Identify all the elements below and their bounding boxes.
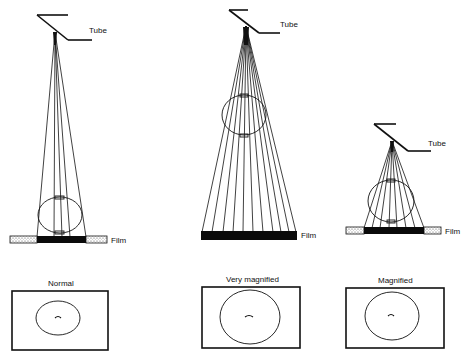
film	[364, 227, 424, 234]
film-label: Film	[301, 231, 316, 240]
tube-label: Tube	[89, 26, 107, 35]
result-label: Normal	[48, 279, 74, 288]
tube-icon	[37, 15, 92, 40]
tube-icon	[374, 124, 431, 151]
film	[37, 236, 86, 243]
result-label: Magnified	[378, 276, 413, 285]
result-image-normal	[12, 291, 108, 350]
tube-icon	[229, 10, 280, 33]
magnification-diagram: Tube Film Normal	[0, 0, 465, 355]
film	[201, 231, 297, 240]
object-sphere	[368, 179, 414, 223]
film-label: Film	[111, 236, 126, 245]
result-image-very-magnified	[202, 287, 300, 348]
x-ray-beams	[364, 141, 424, 228]
setup-normal: Tube Film Normal	[10, 15, 126, 350]
tube-label: Tube	[280, 20, 298, 29]
setup-magnified: Tube Film Magnified	[346, 124, 460, 348]
result-label: Very magnified	[226, 275, 279, 284]
object-sphere	[38, 196, 82, 234]
tube-label: Tube	[428, 139, 446, 148]
x-ray-beams	[37, 32, 86, 237]
result-image-magnified	[346, 288, 444, 348]
film-holder	[346, 227, 441, 234]
film-label: Film	[445, 227, 460, 236]
film-holder	[10, 236, 107, 243]
setup-very-magnified: Tube Film Very magnified	[201, 10, 316, 348]
x-ray-beams	[202, 26, 296, 232]
